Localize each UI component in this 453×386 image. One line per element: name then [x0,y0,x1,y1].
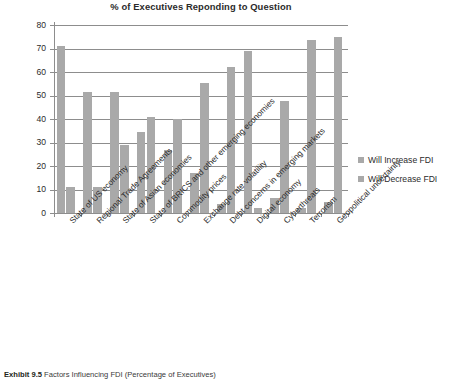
x-tick-mark [321,213,322,217]
bar [110,92,119,213]
bar [137,132,146,213]
figure-caption: Exhibit 9.5 Factors Influencing FDI (Per… [4,370,449,379]
bar [173,119,182,213]
bar [83,92,92,213]
y-tick-label: 80 [24,21,46,30]
y-tick-label-text: 10 [36,185,46,194]
bar [254,208,263,213]
x-tick-mark [161,213,162,217]
bar [297,208,306,213]
y-tick-label: 20 [24,162,46,171]
caption-text: Factors Influencing FDI (Percentage of E… [44,370,216,379]
bar [164,150,173,213]
y-tick-label: 50 [24,91,46,100]
legend-label: Will Increase FDI [368,155,433,165]
bar [334,37,343,213]
bar [307,40,316,213]
y-tick-label: 60 [24,68,46,77]
y-tick-label-text: 60 [36,68,46,77]
bar [280,101,289,213]
bar [66,187,75,213]
bar [217,204,226,213]
x-tick-mark [295,213,296,217]
bar [57,46,66,213]
y-tick-label: 40 [24,115,46,124]
bars-layer [54,25,348,213]
y-tick-label: 70 [24,44,46,53]
x-axis-line [50,213,350,214]
legend-swatch-icon [358,176,364,182]
legend-item: Will Decrease FDI [358,174,453,183]
y-tick-label-text: 50 [36,91,46,100]
bar [227,67,236,213]
x-tick-mark [214,213,215,217]
bar [190,173,199,213]
y-tick-label: 0 [24,209,46,218]
y-tick-label-text: 20 [36,162,46,171]
y-tick-label-text: 80 [36,21,46,30]
bar [120,145,129,213]
legend-swatch-icon [358,157,364,163]
x-tick-mark [107,213,108,217]
y-tick-label: 10 [24,185,46,194]
x-tick-mark [268,213,269,217]
bar [324,202,333,213]
chart-title: % of Executives Reponding to Question [54,1,348,12]
legend-label: Will Decrease FDI [368,174,437,184]
legend-item: Will Increase FDI [358,155,453,164]
y-tick-label-text: 30 [36,138,46,147]
bar [200,83,209,213]
y-tick-label-text: 70 [36,44,46,53]
figure-container: % of Executives Reponding to Question 01… [0,0,453,386]
caption-label: Exhibit 9.5 [4,370,42,379]
bar [93,187,102,213]
x-tick-mark [54,213,55,217]
x-tick-mark [81,213,82,217]
chart-legend: Will Increase FDIWill Decrease FDI [358,155,453,193]
y-tick-label-text: 0 [41,209,46,218]
y-tick-label: 30 [24,138,46,147]
x-tick-mark [348,213,349,217]
x-tick-mark [188,213,189,217]
y-tick-label-text: 40 [36,115,46,124]
bar [147,117,156,213]
x-tick-mark [241,213,242,217]
bar [244,51,253,213]
x-tick-mark [134,213,135,217]
bar [270,198,279,213]
